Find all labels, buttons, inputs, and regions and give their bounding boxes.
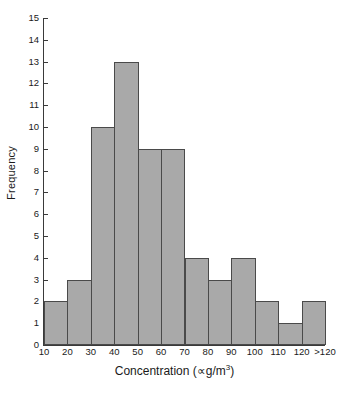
y-tick-label: 12 xyxy=(28,79,39,89)
y-tick-label: 14 xyxy=(28,35,39,45)
x-tick-label: 120 xyxy=(294,347,310,357)
histogram-bar xyxy=(231,258,255,345)
y-tick-label: 2 xyxy=(34,297,39,307)
x-tick-label: 100 xyxy=(247,347,263,357)
y-tick-label: 3 xyxy=(34,275,39,285)
y-tick-label: 5 xyxy=(34,231,39,241)
histogram-bar xyxy=(91,127,115,345)
histogram-bar xyxy=(67,280,91,345)
y-tick-label: 7 xyxy=(34,188,39,198)
y-tick-label: 11 xyxy=(29,100,39,110)
y-axis-title: Frequency xyxy=(0,0,22,345)
histogram-chart: Frequency 0123456789101112131415 1020304… xyxy=(0,0,349,396)
x-axis-title: Concentration (∝g/m3) xyxy=(0,364,349,378)
histogram-bar xyxy=(255,301,279,345)
x-tick-label: 50 xyxy=(132,347,143,357)
y-axis-title-label: Frequency xyxy=(5,146,17,200)
proportional-symbol-icon: ∝ xyxy=(197,364,206,378)
x-axis-unit-body: g/m xyxy=(206,364,226,378)
x-tick-label: 70 xyxy=(179,347,190,357)
histogram-bar xyxy=(138,149,162,345)
y-tick-label: 1 xyxy=(34,318,39,328)
histogram-bar xyxy=(114,62,138,345)
histogram-bar xyxy=(208,280,232,345)
y-tick-label: 10 xyxy=(28,122,39,132)
plot-area: 0123456789101112131415 xyxy=(43,18,325,345)
x-tick-label: 10 xyxy=(39,347,50,357)
histogram-bar xyxy=(302,301,326,345)
x-tick-label: >120 xyxy=(314,347,335,357)
x-axis-title-close: ) xyxy=(230,364,234,378)
y-tick-label: 15 xyxy=(28,13,39,23)
x-tick-label: 90 xyxy=(226,347,237,357)
histogram-bar xyxy=(44,301,68,345)
y-tick-label: 13 xyxy=(28,57,39,67)
y-tick-label: 9 xyxy=(34,144,39,154)
x-tick-label: 40 xyxy=(109,347,120,357)
x-tick-label: 30 xyxy=(86,347,97,357)
x-axis-ticks: 102030405060708090100110120>120 xyxy=(43,347,333,361)
x-axis-title-text: Concentration ( xyxy=(115,364,197,378)
x-tick-label: 110 xyxy=(271,347,286,357)
bars-layer xyxy=(44,18,325,345)
x-tick-label: 80 xyxy=(203,347,214,357)
histogram-bar xyxy=(161,149,185,345)
y-tick-label: 8 xyxy=(34,166,39,176)
histogram-bar xyxy=(185,258,209,345)
histogram-bar xyxy=(278,323,302,345)
y-tick-label: 4 xyxy=(34,253,39,263)
x-tick-label: 20 xyxy=(62,347,73,357)
y-tick-label: 6 xyxy=(34,209,39,219)
x-tick-label: 60 xyxy=(156,347,167,357)
